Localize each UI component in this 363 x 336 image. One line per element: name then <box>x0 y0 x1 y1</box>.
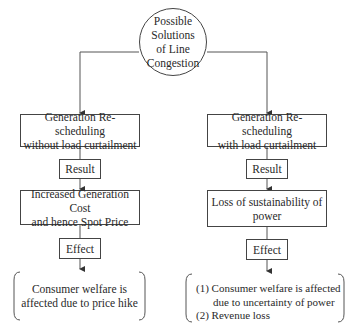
right-result-line: power <box>212 209 323 223</box>
right-result-box: Loss of sustainability of power <box>207 190 327 227</box>
left-effect-label-box: Effect <box>59 238 101 259</box>
left-method-line: Generation Re-scheduling <box>21 110 139 138</box>
root-node-possible-solutions: Possible Solutions of Line Congestion <box>139 8 207 76</box>
left-result-line: and hence Spot Price <box>21 215 139 229</box>
left-result-label-box: Result <box>59 159 101 179</box>
right-result-label-box: Result <box>246 159 288 179</box>
right-method-box: Generation Re-scheduling with load curta… <box>207 114 327 147</box>
right-effect-label-box: Effect <box>246 239 288 260</box>
right-effect-line: due to uncertainty of power <box>196 296 341 310</box>
right-method-line: with load curtailment <box>208 138 326 152</box>
right-effect-line: (1) Consumer welfare is affected <box>196 282 341 296</box>
left-result-box: Increased Generation Cost and hence Spot… <box>20 190 140 225</box>
right-method-line: Generation Re-scheduling <box>208 110 326 138</box>
root-label-line: Solutions <box>147 28 199 42</box>
left-result-line: Increased Generation Cost <box>21 187 139 215</box>
right-effect-line: (2) Revenue loss <box>196 309 341 323</box>
right-result-label: Result <box>252 162 281 176</box>
root-label-line: Congestion <box>147 56 199 70</box>
left-effect-bracket: Consumer welfare is affected due to pric… <box>14 272 145 320</box>
left-effect-line: Consumer welfare is <box>14 282 145 296</box>
left-effect-label: Effect <box>66 242 94 256</box>
right-effect-label: Effect <box>253 243 281 257</box>
left-effect-line: affected due to price hike <box>14 296 145 310</box>
root-label-line: Possible <box>147 14 199 28</box>
root-label-line: of Line <box>147 42 199 56</box>
left-method-line: without load curtailment <box>21 138 139 152</box>
left-method-box: Generation Re-scheduling without load cu… <box>20 114 140 147</box>
left-result-label: Result <box>65 162 94 176</box>
right-result-line: Loss of sustainability of <box>212 195 323 209</box>
right-effect-bracket: (1) Consumer welfare is affected due to … <box>186 274 344 322</box>
